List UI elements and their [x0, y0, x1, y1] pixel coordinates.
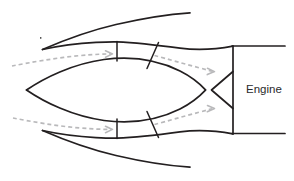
inlet-diagram-svg: Engine — [0, 0, 294, 181]
engine-label: Engine — [246, 83, 282, 95]
scan-speck — [40, 37, 41, 39]
inlet-diagram-canvas: Engine — [0, 0, 294, 181]
